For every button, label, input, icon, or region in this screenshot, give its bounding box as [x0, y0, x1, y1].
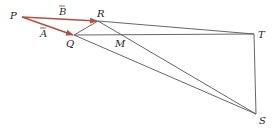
label-M: M [114, 38, 126, 49]
vector-diagram: P R Q M T S B A [0, 0, 278, 133]
segments [74, 21, 256, 114]
segment-QT [74, 34, 254, 35]
vectors [22, 17, 97, 35]
label-S: S [259, 115, 266, 126]
svg-text:A: A [39, 28, 47, 39]
segment-QS [74, 35, 256, 114]
label-Q: Q [66, 38, 74, 49]
segment-RS [98, 21, 256, 114]
label-P: P [9, 10, 17, 21]
svg-text:B: B [58, 6, 66, 17]
vector-label-A: A [39, 28, 47, 39]
label-T: T [258, 29, 266, 40]
segment-TS [254, 34, 256, 114]
segment-QR [74, 21, 98, 35]
label-R: R [96, 8, 105, 19]
vector-label-B: B [58, 6, 66, 17]
segment-RT [98, 21, 254, 34]
